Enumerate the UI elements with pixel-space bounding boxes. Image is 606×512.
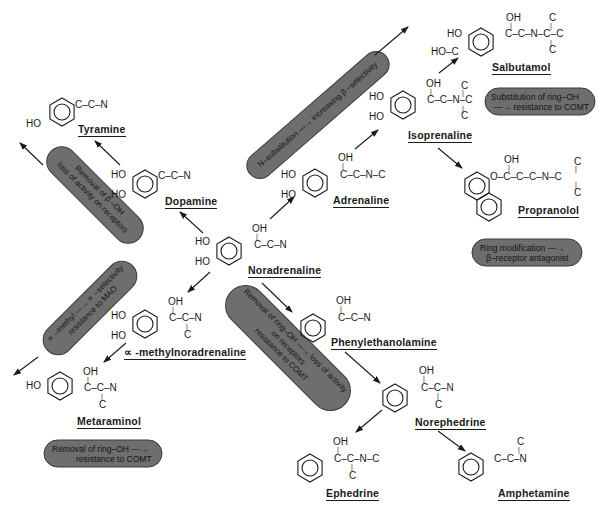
norephedrine-sub-c: C: [435, 400, 442, 410]
noradrenaline-ho-2: HO: [195, 257, 210, 267]
salbutamol-hoc: HO–C: [431, 47, 459, 57]
norephedrine-oh: OH: [419, 366, 434, 376]
ring-noradrenaline: [217, 237, 241, 265]
dopamine-ho-1: HO: [111, 170, 126, 180]
adrenaline-ho-1: HO: [281, 170, 296, 180]
compound-name-isoprenaline: Isoprenaline: [408, 129, 472, 143]
amna-ho-1: HO: [111, 311, 126, 321]
salbutamol-branch-bond-top: |: [550, 21, 552, 31]
ring-propranolol-b: [477, 193, 501, 221]
arrow-phenylethanolamine-to-norephedrine: [345, 352, 380, 383]
noradrenaline-oh: OH: [252, 224, 267, 234]
compound-name-alpha-methylnoradrenaline: ∝ -methylnoradrenaline: [124, 346, 246, 360]
noradrenaline-ho-1: HO: [195, 237, 210, 247]
salbutamol-oh: OH: [506, 13, 521, 23]
compound-name-ephedrine: Ephedrine: [326, 487, 379, 501]
arrow-alpha-methylnoradrenaline-to-metaraminol: [104, 343, 126, 362]
ring-ephedrine: [298, 454, 322, 482]
isoprenaline-chain: C–C–N–C: [427, 95, 473, 105]
isoprenaline-branch-bottom: C: [461, 111, 468, 121]
ring-adrenaline: [303, 169, 327, 197]
pea-oh: OH: [336, 296, 351, 306]
arrow-beta-oh: [20, 143, 43, 165]
noradrenaline-chain: C–C–N: [254, 240, 287, 250]
amna-sub-c: C: [184, 330, 191, 340]
arrow-alpha-methyl: [14, 357, 38, 375]
compound-name-dopamine: Dopamine: [165, 195, 217, 209]
isoprenaline-oh: OH: [426, 79, 441, 89]
tyramine-chain: C–C–N: [75, 100, 108, 110]
amna-ho-2: HO: [111, 331, 126, 341]
ring-amphetamine: [459, 453, 483, 481]
arrow-norephedrine-to-ephedrine: [356, 410, 382, 432]
arrow-noradrenaline-to-dopamine: [180, 212, 203, 233]
pill-text-removal-ring-oh-bottom: Removal of ring–OH —→ resistance to COMT: [44, 441, 162, 468]
salbutamol-ho: HO: [447, 29, 462, 39]
compound-name-adrenaline: Adrenaline: [333, 194, 389, 208]
propranolol-branch-bottom: C: [574, 188, 581, 198]
ring-norephedrine: [383, 384, 407, 412]
compound-name-noradrenaline: Noradrenaline: [248, 264, 321, 278]
ring-propranolol-a: [465, 172, 489, 200]
isoprenaline-branch-bond-top: |: [462, 88, 464, 98]
ephedrine-oh: OH: [333, 437, 348, 447]
ring-tyramine: [50, 98, 74, 126]
metaraminol-oh: OH: [83, 367, 98, 377]
tyramine-ho: HO: [26, 119, 41, 129]
compound-name-metaraminol: Metaraminol: [77, 415, 141, 429]
compound-name-salbutamol: Salbutamol: [492, 61, 551, 75]
ring-salbutamol: [469, 28, 493, 56]
isoprenaline-ho-2: HO: [369, 112, 384, 122]
compound-name-norephedrine: Norephedrine: [415, 416, 486, 430]
metaraminol-ho: HO: [26, 381, 41, 391]
propranolol-branch-bond-top: |: [575, 164, 577, 174]
arrow-dopamine-to-tyramine: [95, 141, 120, 165]
arrow-norephedrine-to-amphetamine: [438, 431, 465, 451]
adrenaline-oh: OH: [338, 153, 353, 163]
pea-chain: C–C–N: [338, 313, 371, 323]
amphetamine-chain: C–C–N: [494, 454, 527, 464]
propranolol-chain: O–C–C–C–N–C: [490, 172, 562, 182]
adrenaline-ho-2: HO: [281, 190, 296, 200]
pill-text-substitution-ring-oh: Substitution of ring–OH —→ resistance to…: [485, 89, 595, 116]
arrow-isoprenaline-to-propranolol: [438, 148, 462, 168]
isoprenaline-ho-1: HO: [369, 92, 384, 102]
amna-oh: OH: [168, 297, 183, 307]
ring-isoprenaline: [391, 91, 415, 119]
ring-alpha-methylnoradrenaline: [133, 310, 157, 338]
sar-diagram: N–substitution —→ increasing β –selectiv…: [0, 0, 606, 512]
arrow-noradrenaline-to-adrenaline: [270, 197, 294, 219]
compound-name-propranolol: Propranolol: [518, 204, 579, 218]
compound-name-tyramine: Tyramine: [78, 123, 126, 137]
ring-dopamine: [133, 170, 157, 198]
dopamine-chain: C–C–N: [158, 171, 191, 181]
arrow-adrenaline-to-isoprenaline: [355, 130, 378, 149]
ephedrine-sub-c: C: [349, 471, 356, 481]
salbutamol-chain: C–C–N–C–C: [505, 29, 563, 39]
ring-metaraminol: [48, 372, 72, 400]
compound-name-phenylethanolamine: Phenylethanolamine: [331, 336, 437, 350]
pill-text-ring-modification: Ring modification —→ β–receptor antagoni…: [472, 240, 582, 267]
ephedrine-chain: C–C–N–C: [334, 454, 380, 464]
dopamine-ho-2: HO: [111, 190, 126, 200]
salbutamol-branch-bottom: C: [549, 45, 556, 55]
adrenaline-chain: C–C–N–C: [340, 170, 386, 180]
arrow-n-substitution: [375, 27, 408, 55]
metaraminol-sub-c: C: [99, 400, 106, 410]
arrow-isoprenaline-to-salbutamol: [439, 58, 458, 73]
compound-name-amphetamine: Amphetamine: [498, 487, 570, 501]
arrow-noradrenaline-to-alpha-methylnoradrenaline: [188, 272, 210, 292]
propranolol-oh: OH: [504, 155, 519, 165]
